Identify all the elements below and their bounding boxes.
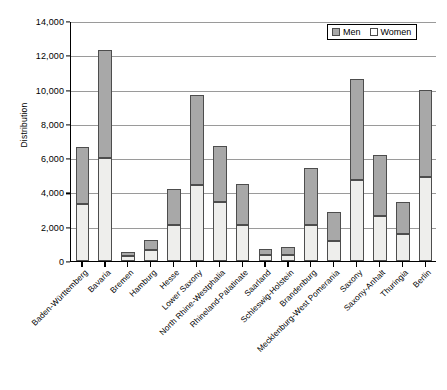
- bar-group[interactable]: [190, 21, 204, 261]
- bar-segment-women[interactable]: [350, 180, 364, 261]
- bar-group[interactable]: [419, 21, 433, 261]
- bar-segment-women[interactable]: [121, 256, 135, 261]
- x-tick-mark: [81, 262, 82, 267]
- bar-segment-women[interactable]: [76, 204, 90, 261]
- x-tick-mark: [333, 262, 334, 267]
- bar-group[interactable]: [304, 21, 318, 261]
- bar-segment-men[interactable]: [98, 50, 112, 158]
- x-tick-mark: [264, 262, 265, 267]
- x-tick-mark: [219, 262, 220, 267]
- bar-group[interactable]: [167, 21, 181, 261]
- bar-segment-women[interactable]: [419, 177, 433, 261]
- y-tick-label: 2,000: [41, 223, 64, 233]
- bar-group[interactable]: [396, 21, 410, 261]
- y-tick-label: 12,000: [36, 51, 64, 61]
- y-tick-label: 6,000: [41, 154, 64, 164]
- legend-item-men: Men: [332, 27, 361, 37]
- bar-group[interactable]: [281, 21, 295, 261]
- bar-segment-men[interactable]: [167, 189, 181, 225]
- bar-segment-men[interactable]: [281, 247, 295, 255]
- bar-segment-men[interactable]: [396, 202, 410, 235]
- bar-segment-men[interactable]: [121, 252, 135, 255]
- bar-segment-women[interactable]: [373, 216, 387, 261]
- bar-segment-men[interactable]: [304, 168, 318, 225]
- x-tick-mark: [242, 262, 243, 267]
- x-tick-mark: [379, 262, 380, 267]
- bar-segment-men[interactable]: [419, 90, 433, 177]
- bar-segment-men[interactable]: [350, 79, 364, 180]
- x-tick-mark: [425, 262, 426, 267]
- bar-segment-women[interactable]: [167, 225, 181, 261]
- x-tick-mark: [150, 262, 151, 267]
- legend-item-women: Women: [370, 27, 412, 37]
- women-swatch-icon: [370, 28, 378, 36]
- bar-segment-women[interactable]: [281, 255, 295, 261]
- x-tick-mark: [310, 262, 311, 267]
- y-tick-label: 8,000: [41, 120, 64, 130]
- x-tick-mark: [356, 262, 357, 267]
- bar-group[interactable]: [144, 21, 158, 261]
- bar-group[interactable]: [76, 21, 90, 261]
- bar-segment-women[interactable]: [304, 225, 318, 261]
- y-tick-label: 4,000: [41, 188, 64, 198]
- bar-group[interactable]: [327, 21, 341, 261]
- bar-segment-women[interactable]: [144, 250, 158, 261]
- bar-segment-women[interactable]: [327, 241, 341, 261]
- legend-label-men: Men: [343, 27, 361, 37]
- men-swatch-icon: [332, 28, 340, 36]
- bar-group[interactable]: [373, 21, 387, 261]
- bar-segment-men[interactable]: [259, 249, 273, 255]
- x-tick-mark: [402, 262, 403, 267]
- x-tick-mark: [127, 262, 128, 267]
- bar-segment-women[interactable]: [259, 255, 273, 261]
- bar-segment-men[interactable]: [76, 147, 90, 204]
- x-tick-mark: [173, 262, 174, 267]
- x-tick-mark: [196, 262, 197, 267]
- bar-segment-women[interactable]: [98, 158, 112, 261]
- bar-segment-men[interactable]: [190, 95, 204, 185]
- bar-group[interactable]: [350, 21, 364, 261]
- bar-group[interactable]: [213, 21, 227, 261]
- bar-group[interactable]: [259, 21, 273, 261]
- y-tick-label: 14,000: [36, 17, 64, 27]
- plot-area: [70, 22, 436, 262]
- bar-segment-men[interactable]: [373, 155, 387, 216]
- x-axis-ticks: [70, 262, 436, 267]
- bar-group[interactable]: [121, 21, 135, 261]
- bar-segment-men[interactable]: [213, 146, 227, 202]
- chart-legend: Men Women: [327, 24, 417, 40]
- bars-layer: [71, 22, 436, 261]
- x-axis-labels: Baden-WürttembergBavariaBremenHamburgHes…: [0, 268, 447, 390]
- bar-segment-men[interactable]: [327, 212, 341, 241]
- bar-segment-women[interactable]: [236, 225, 250, 261]
- bar-group[interactable]: [236, 21, 250, 261]
- bar-segment-women[interactable]: [396, 234, 410, 261]
- stacked-bar-chart: Distribution 02,0004,0006,0008,00010,000…: [0, 0, 447, 390]
- bar-segment-women[interactable]: [190, 185, 204, 261]
- bar-segment-men[interactable]: [236, 184, 250, 225]
- x-tick-mark: [287, 262, 288, 267]
- y-axis-ticks: 02,0004,0006,0008,00010,00012,00014,000: [0, 22, 70, 262]
- y-tick-label: 0: [59, 257, 64, 267]
- bar-group[interactable]: [98, 21, 112, 261]
- y-tick-label: 10,000: [36, 86, 64, 96]
- legend-label-women: Women: [381, 27, 412, 37]
- bar-segment-men[interactable]: [144, 240, 158, 250]
- x-tick-mark: [104, 262, 105, 267]
- bar-segment-women[interactable]: [213, 202, 227, 261]
